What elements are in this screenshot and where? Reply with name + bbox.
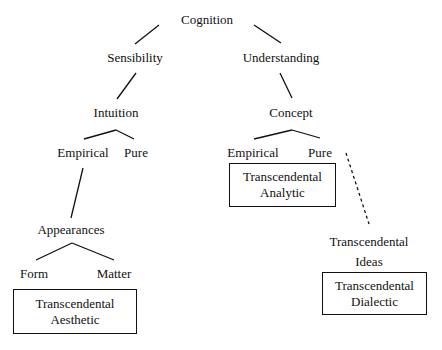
node-sensibility: Sensibility: [107, 50, 163, 65]
dialectic-line-2: Dialectic: [351, 294, 398, 310]
aesthetic-line-1: Transcendental: [36, 296, 115, 312]
node-concept-pure: Pure: [308, 145, 332, 160]
transcendental-ideas-line-1: Transcendental: [330, 232, 409, 252]
node-concept: Concept: [269, 105, 312, 120]
node-form: Form: [20, 266, 48, 281]
edge-cognition-understanding: [254, 25, 281, 43]
edge-pure-transcendental-ideas: [346, 153, 369, 224]
node-intuition: Intuition: [94, 105, 139, 120]
edge-sensibility-intuition: [117, 73, 136, 99]
aesthetic-line-2: Aesthetic: [50, 312, 99, 328]
edge-concept-empirical: [254, 130, 292, 139]
transcendental-ideas-line-2: Ideas: [330, 252, 409, 272]
edge-cognition-sensibility: [135, 25, 159, 44]
node-cognition: Cognition: [181, 12, 233, 27]
box-transcendental-aesthetic: Transcendental Aesthetic: [13, 289, 137, 334]
box-transcendental-dialectic: Transcendental Dialectic: [322, 272, 427, 315]
edge-appearances-form: [36, 243, 72, 260]
node-appearances: Appearances: [37, 222, 104, 237]
node-intuition-pure: Pure: [124, 145, 148, 160]
edge-understanding-concept: [280, 73, 292, 98]
node-intuition-empirical: Empirical: [57, 145, 108, 160]
edge-intuition-empirical: [84, 130, 116, 139]
dialectic-line-1: Transcendental: [335, 278, 414, 294]
node-understanding: Understanding: [243, 50, 320, 65]
edge-empirical-appearances: [71, 168, 83, 218]
analytic-line-2: Analytic: [260, 185, 305, 201]
node-concept-empirical: Empirical: [227, 145, 278, 160]
node-matter: Matter: [97, 266, 132, 281]
edge-intuition-pure: [116, 130, 134, 139]
edge-concept-pure: [292, 130, 320, 138]
box-transcendental-analytic: Transcendental Analytic: [229, 163, 336, 207]
analytic-line-1: Transcendental: [243, 169, 322, 185]
edge-appearances-matter: [72, 243, 114, 260]
node-transcendental-ideas: Transcendental Ideas: [330, 232, 409, 272]
